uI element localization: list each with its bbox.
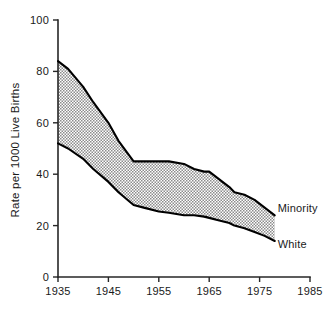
x-tick-label-1945: 1945 [96,285,121,297]
y-tick-label-20: 20 [36,220,49,232]
y-tick-label-60: 60 [36,117,49,129]
y-axis-tick-labels: 020406080100 [30,14,49,283]
infant-mortality-area-chart: 020406080100 193519451955196519751985 Ra… [0,0,336,319]
band-between-minority-and-white [58,61,275,241]
series-label-minority: Minority [278,202,318,214]
y-tick-label-80: 80 [36,65,49,77]
x-tick-label-1985: 1985 [297,285,322,297]
x-tick-label-1975: 1975 [247,285,272,297]
series-label-white: White [278,238,307,250]
x-tick-label-1955: 1955 [146,285,171,297]
shaded-band-group [58,61,275,241]
y-tick-label-40: 40 [36,168,49,180]
y-tick-label-100: 100 [30,14,49,26]
x-axis-tick-labels: 193519451955196519751985 [45,285,322,297]
series-inline-labels: MinorityWhite [278,202,318,250]
y-axis-title: Rate per 1000 Live Births [9,83,21,218]
chart-container: 020406080100 193519451955196519751985 Ra… [0,0,336,319]
x-tick-label-1935: 1935 [45,285,70,297]
x-tick-label-1965: 1965 [197,285,222,297]
y-tick-label-0: 0 [43,271,49,283]
